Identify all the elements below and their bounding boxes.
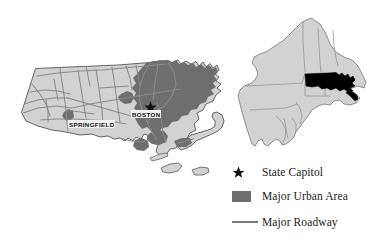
urban-fallriver-newbedford	[133, 138, 149, 151]
line-icon	[232, 221, 258, 223]
elizabeth-islands	[150, 153, 168, 161]
legend-label-major-roadway: Major Roadway	[258, 216, 338, 228]
northeast-inset-map-group	[238, 18, 366, 146]
map-figure: SPRINGFIELD BOSTON State Capitol Major U…	[0, 0, 371, 241]
legend-label-state-capitol: State Capitol	[258, 166, 323, 178]
city-label-springfield: SPRINGFIELD	[68, 120, 115, 128]
marthas-vineyard	[161, 163, 182, 173]
legend-label-major-urban-area: Major Urban Area	[258, 190, 348, 202]
city-label-boston: BOSTON	[131, 110, 161, 118]
legend: State Capitol Major Urban Area Major Roa…	[232, 160, 371, 238]
legend-item-major-roadway: Major Roadway	[232, 212, 338, 232]
swatch-icon	[232, 191, 258, 202]
massachusetts-map-group	[22, 60, 225, 175]
legend-item-state-capitol: State Capitol	[232, 162, 323, 182]
star-icon	[232, 166, 258, 179]
nantucket	[192, 167, 209, 175]
legend-item-major-urban-area: Major Urban Area	[232, 186, 348, 206]
